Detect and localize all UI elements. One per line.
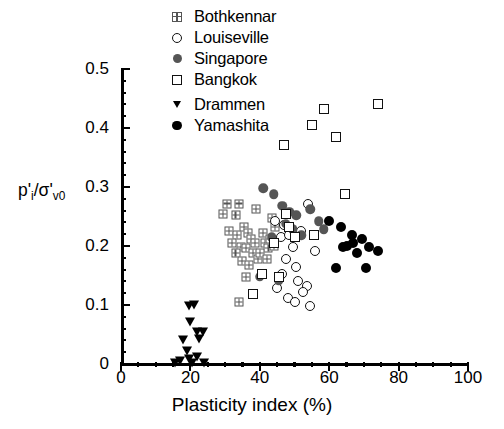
x-tick-label: 20 [181, 368, 200, 388]
y-tick-label: 0.5 [85, 59, 109, 79]
y-axis-title: p'i/σ'v0 [18, 180, 65, 203]
data-point-bangkok [248, 289, 258, 299]
data-point-yamashita [324, 216, 334, 226]
y-tick [121, 210, 126, 212]
data-point-bothkennar [245, 260, 254, 269]
legend-item-bothkennar: Bothkennar [160, 6, 276, 27]
x-tick-label: 0 [116, 368, 125, 388]
data-point-bothkennar [250, 239, 259, 248]
y-tick [121, 186, 130, 188]
y-tick-label: 0.3 [85, 177, 109, 197]
y-tick [121, 198, 126, 200]
x-tick-label: 100 [454, 368, 482, 388]
data-point-bangkok [274, 272, 284, 282]
data-point-yamashita [373, 246, 383, 256]
data-point-singapore [319, 225, 329, 235]
y-tick [121, 162, 126, 164]
data-point-singapore [291, 211, 301, 221]
data-point-bangkok [257, 269, 267, 279]
y-tick [121, 257, 126, 259]
data-point-bangkok [331, 132, 341, 142]
y-tick-label: 0.4 [85, 118, 109, 138]
plot-area [121, 69, 468, 364]
data-point-bangkok [373, 99, 383, 109]
data-point-drammen [178, 336, 188, 345]
y-tick [121, 245, 130, 247]
data-point-bothkennar [241, 272, 250, 281]
data-point-drammen [185, 317, 195, 326]
data-point-bothkennar [231, 211, 240, 220]
data-point-bothkennar [252, 205, 261, 214]
data-point-bothkennar [228, 239, 237, 248]
y-tick [121, 292, 126, 294]
data-point-bothkennar [262, 254, 271, 263]
figure: BothkennarLouisevilleSingaporeBangkokDra… [0, 0, 504, 429]
y-tick [121, 115, 126, 117]
y-tick [121, 174, 126, 176]
x-tick [363, 362, 365, 367]
y-tick [121, 221, 126, 223]
data-point-yamashita [331, 263, 341, 273]
data-point-bangkok [269, 238, 279, 248]
data-point-drammen [199, 358, 209, 367]
data-point-bangkok [340, 189, 350, 199]
y-tick [121, 316, 126, 318]
x-tick-label: 40 [250, 368, 269, 388]
data-point-bothkennar [234, 298, 243, 307]
data-point-louiseville [310, 246, 320, 256]
x-axis-title: Plasticity index (%) [0, 394, 504, 416]
data-point-bangkok [319, 104, 329, 114]
data-point-louiseville [290, 297, 300, 307]
data-point-singapore [269, 189, 279, 199]
y-tick [121, 339, 126, 341]
y-tick-label: 0.1 [85, 295, 109, 315]
data-point-louiseville [272, 283, 282, 293]
x-tick [415, 362, 417, 367]
data-point-yamashita [338, 242, 348, 252]
data-point-drammen [170, 358, 180, 367]
data-point-louiseville [298, 287, 308, 297]
x-tick [311, 362, 313, 367]
legend-item-louiseville: Louiseville [160, 27, 276, 48]
x-tick [137, 362, 139, 367]
data-point-bangkok [307, 120, 317, 130]
x-tick [241, 362, 243, 367]
y-tick [121, 103, 126, 105]
data-point-singapore [305, 205, 315, 215]
data-point-bangkok [281, 209, 291, 219]
data-point-louiseville [305, 301, 315, 311]
x-tick [345, 362, 347, 367]
data-point-yamashita [336, 222, 346, 232]
x-tick [432, 362, 434, 367]
x-tick [224, 362, 226, 367]
y-tick [121, 92, 126, 94]
data-point-bothkennar [222, 199, 231, 208]
x-tick-label: 60 [320, 368, 339, 388]
data-point-bangkok [309, 230, 319, 240]
data-point-singapore [259, 183, 269, 193]
x-tick [155, 362, 157, 367]
y-tick [121, 80, 126, 82]
x-tick [450, 362, 452, 367]
data-point-louiseville [291, 262, 301, 272]
y-tick [121, 233, 126, 235]
data-point-bothkennar [234, 199, 243, 208]
legend-label: Louiseville [194, 29, 269, 46]
data-point-bothkennar [219, 209, 228, 218]
x-tick [276, 362, 278, 367]
y-tick [121, 151, 126, 153]
y-tick [121, 351, 126, 353]
data-point-louiseville [288, 242, 298, 252]
data-point-yamashita [361, 263, 371, 273]
y-tick-label: 0 [100, 354, 109, 374]
data-point-drammen [189, 301, 199, 310]
legend-marker-icon [160, 54, 194, 63]
data-point-yamashita [352, 248, 362, 258]
legend-marker-icon [160, 33, 194, 43]
legend-marker-icon [160, 12, 194, 22]
data-point-louiseville [281, 254, 291, 264]
y-tick [121, 269, 126, 271]
y-tick [121, 127, 130, 129]
y-tick [121, 304, 130, 306]
x-tick [293, 362, 295, 367]
